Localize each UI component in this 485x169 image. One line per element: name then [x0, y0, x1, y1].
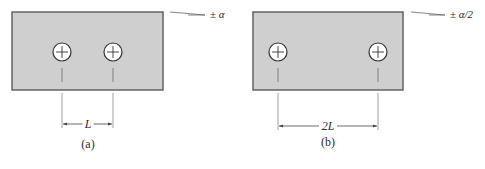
tolerance-diagram: L± α(a)2L± α/2(b)	[0, 0, 485, 169]
panel-a: L± α(a)	[12, 8, 225, 151]
dimension-label: L	[84, 117, 92, 131]
tolerance-label: ± α/2	[450, 8, 474, 20]
panel-caption: (a)	[81, 137, 94, 151]
tolerance-line-upper	[411, 12, 445, 15]
plate-rectangle	[12, 12, 163, 90]
tolerance-label: ± α	[210, 8, 225, 20]
panel-caption: (b)	[321, 135, 335, 149]
tolerance-line-upper	[170, 12, 205, 15]
dimension-label: 2L	[322, 119, 335, 133]
panel-b: 2L± α/2(b)	[253, 8, 474, 149]
